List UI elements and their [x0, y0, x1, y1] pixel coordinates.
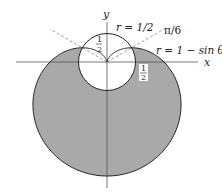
- x-axis-label: x: [204, 56, 211, 69]
- svg-text:2: 2: [141, 73, 146, 82]
- svg-text:2: 2: [97, 45, 102, 54]
- polar-region-diagram: y x r = 1/2 π/6 r = 1 − sin θ 1 2 1 2: [0, 0, 222, 196]
- radius-label-outer: 1 2: [139, 64, 148, 82]
- y-axis-label: y: [102, 8, 110, 21]
- radius-label-inner: 1 2: [96, 35, 102, 54]
- svg-text:1: 1: [141, 64, 146, 73]
- angle-label: π/6: [164, 24, 181, 36]
- svg-text:1: 1: [97, 35, 102, 44]
- cardioid-equation-label: r = 1 − sin θ: [156, 44, 222, 56]
- circle-equation-label: r = 1/2: [116, 21, 154, 33]
